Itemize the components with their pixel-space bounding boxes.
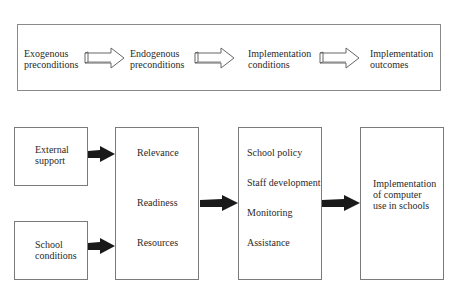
precondition-relevance: Relevance: [137, 147, 179, 158]
solid-arrow-icon: [88, 238, 115, 256]
solid-arrow-icon: [200, 195, 238, 213]
implementation-outcome-box: Implementation of computer use in school…: [360, 127, 444, 280]
stage-exogenous-preconditions: Exogenous preconditions: [24, 48, 78, 70]
external-support-box: External support: [14, 127, 88, 186]
condition-monitoring: Monitoring: [247, 207, 293, 218]
stage-endogenous-preconditions: Endogenous preconditions: [130, 48, 184, 70]
solid-arrow-icon: [88, 146, 115, 164]
precondition-resources: Resources: [137, 237, 178, 248]
precondition-readiness: Readiness: [137, 197, 178, 208]
school-conditions-box: School conditions: [14, 221, 88, 280]
preconditions-box: Relevance Readiness Resources: [115, 127, 199, 280]
outline-arrow-icon: [83, 47, 125, 69]
stage-implementation-conditions: Implementation conditions: [248, 48, 311, 70]
school-conditions-label: School conditions: [35, 239, 77, 261]
external-support-label: External support: [35, 144, 69, 166]
solid-arrow-icon: [322, 195, 360, 213]
implementation-conditions-box: School policy Staff development Monitori…: [238, 127, 322, 280]
outline-arrow-icon: [193, 47, 235, 69]
stage-implementation-outcomes: Implementation outcomes: [370, 48, 433, 70]
condition-school-policy: School policy: [247, 147, 302, 158]
outline-arrow-icon: [318, 47, 360, 69]
condition-assistance: Assistance: [247, 237, 290, 248]
condition-staff-development: Staff development: [247, 177, 320, 188]
outcome-label: Implementation of computer use in school…: [373, 178, 436, 211]
